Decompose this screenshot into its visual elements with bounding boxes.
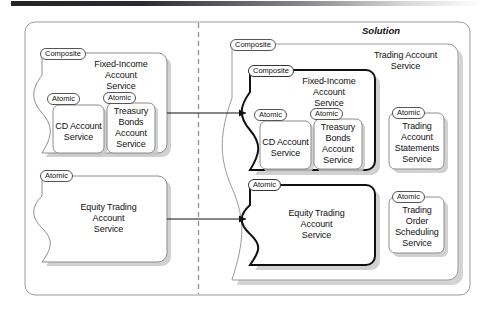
badge-left-equity-atomic: Atomic <box>40 170 73 182</box>
badge-right-composite: Composite <box>248 65 294 77</box>
right-treasury-bonds-box <box>314 119 362 169</box>
left-cd-account-box <box>53 105 104 153</box>
badge-right-outer-composite: Composite <box>230 39 276 51</box>
badge-left-cd-atomic: Atomic <box>47 93 80 105</box>
right-statements-box <box>389 113 444 169</box>
badge-right-scheduling-atomic: Atomic <box>392 191 425 203</box>
badge-left-composite: Composite <box>40 48 86 60</box>
badge-right-cd-atomic: Atomic <box>254 109 287 121</box>
diagram-canvas: Solution Composite Fixed-Income Account … <box>0 0 493 316</box>
badge-right-statements-atomic: Atomic <box>392 107 425 119</box>
left-equity-service-shape <box>34 176 167 262</box>
badge-right-treasury-atomic: Atomic <box>310 108 343 120</box>
left-treasury-bonds-box <box>107 103 155 153</box>
badge-left-treasury-atomic: Atomic <box>103 92 136 104</box>
right-scheduling-box <box>389 197 444 253</box>
right-equity-service-shape <box>242 185 375 265</box>
solution-title: Solution <box>362 25 400 36</box>
badge-right-equity-atomic: Atomic <box>248 179 281 191</box>
right-cd-account-box <box>260 121 311 169</box>
